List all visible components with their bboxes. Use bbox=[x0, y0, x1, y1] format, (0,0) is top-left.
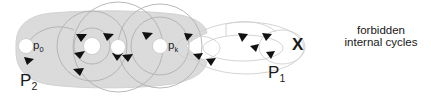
node-label-p0-subscript: 0 bbox=[39, 45, 43, 54]
annotation-line-1: forbidden bbox=[337, 24, 425, 36]
region-label-p2: P2 bbox=[20, 72, 38, 92]
forbidden-internal-cycles-figure: p0 pk P2 P1 X forbidden internal cycles bbox=[0, 0, 431, 102]
node-label-p0: p0 bbox=[33, 39, 44, 54]
forbidden-cycles-annotation: forbidden internal cycles bbox=[337, 24, 425, 48]
node-3 bbox=[111, 40, 126, 55]
region-label-p1: P1 bbox=[268, 64, 286, 84]
diagram-canvas bbox=[0, 0, 431, 102]
node-2 bbox=[84, 38, 101, 55]
node-pk bbox=[153, 39, 168, 54]
node-label-pk-subscript: k bbox=[174, 45, 178, 54]
region-label-p1-subscript: 1 bbox=[280, 72, 286, 84]
node-label-pk: pk bbox=[168, 39, 178, 54]
annotation-line-2: internal cycles bbox=[337, 36, 425, 48]
x-mark-icon: X bbox=[292, 36, 303, 54]
node-p0 bbox=[19, 39, 34, 54]
region-label-p2-subscript: 2 bbox=[32, 80, 38, 92]
